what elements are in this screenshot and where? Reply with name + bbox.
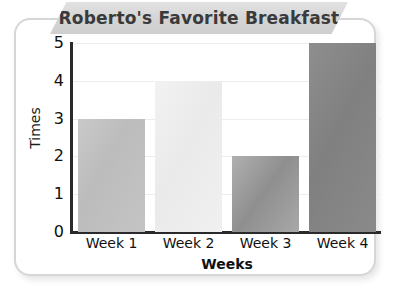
chart-title-banner: Roberto's Favorite Breakfast [50,2,348,34]
bar [155,81,222,232]
x-tick-label: Week 3 [227,235,304,251]
bar [309,43,376,232]
bar-series [73,43,381,232]
y-tick-label: 2 [44,148,64,164]
y-axis-title: Times [27,93,43,163]
x-tick-label: Week 2 [150,235,227,251]
x-axis-tick-labels: Week 1Week 2Week 3Week 4 [73,235,381,257]
plot-area [73,43,381,232]
y-tick-label: 1 [44,186,64,202]
y-axis-tick-labels: 012345 [44,43,64,232]
y-tick-label: 3 [44,111,64,127]
y-tick-label: 5 [44,35,64,51]
chart-title: Roberto's Favorite Breakfast [59,8,340,28]
chart-plot-wrapper: Times 012345 Week 1Week 2Week 3Week 4 We… [14,18,376,276]
bar [78,119,145,232]
y-tick-label: 0 [44,224,64,240]
y-tick-label: 4 [44,73,64,89]
bar [232,156,299,232]
x-axis-title: Weeks [73,256,381,272]
x-tick-label: Week 4 [304,235,381,251]
x-tick-label: Week 1 [73,235,150,251]
